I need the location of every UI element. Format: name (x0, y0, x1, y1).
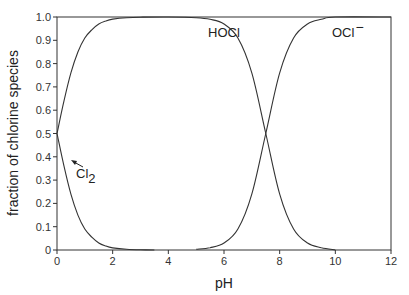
y-tick-label: 0 (45, 244, 51, 256)
y-tick-label: 0.8 (36, 58, 51, 70)
y-tick-label: 0.2 (36, 197, 51, 209)
ocl-charge: − (355, 19, 363, 35)
y-tick-label: 0.4 (36, 151, 51, 163)
x-tick-label: 10 (329, 255, 341, 267)
y-tick-label: 0.5 (36, 128, 51, 140)
y-tick-label: 0.1 (36, 221, 51, 233)
x-tick-label: 0 (54, 255, 60, 267)
y-tick-label: 0.3 (36, 174, 51, 186)
ocl-text: OCl (332, 25, 355, 40)
x-axis-ticks: 024681012 (54, 250, 397, 267)
y-tick-label: 0.9 (36, 34, 51, 46)
x-tick-label: 4 (165, 255, 171, 267)
x-tick-label: 6 (221, 255, 227, 267)
cl2-label: Cl2 (76, 166, 96, 186)
cl-subscript: 2 (88, 171, 95, 186)
cl-text: Cl (76, 166, 88, 181)
x-tick-label: 8 (277, 255, 283, 267)
plot-frame (57, 17, 391, 250)
chart: 00.10.20.30.40.50.60.70.80.91.0 02468101… (0, 0, 409, 295)
ocl-label: OCl− (332, 19, 364, 40)
x-axis-label: pH (215, 275, 233, 291)
x-tick-label: 12 (385, 255, 397, 267)
hocl-label: HOCl (208, 25, 240, 40)
y-axis-ticks: 00.10.20.30.40.50.60.70.80.91.0 (36, 11, 57, 256)
x-tick-label: 2 (110, 255, 116, 267)
y-tick-label: 0.6 (36, 104, 51, 116)
series-line-cl2 (57, 134, 154, 251)
y-tick-label: 1.0 (36, 11, 51, 23)
y-axis-label: fraction of chlorine species (5, 50, 21, 216)
series-line-hocl (57, 17, 335, 250)
y-tick-label: 0.7 (36, 81, 51, 93)
series-lines (57, 17, 391, 250)
series-line-ocl (196, 17, 391, 249)
